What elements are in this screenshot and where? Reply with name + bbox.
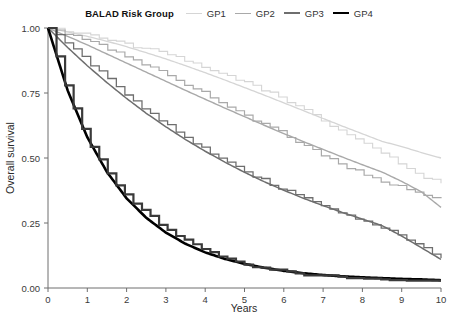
curve-gp1-fitted (48, 28, 441, 158)
curve-gp2-fitted (48, 28, 441, 207)
survival-chart: BALAD Risk Group GP1 GP2 GP3 GP4 0.000.2… (0, 0, 458, 318)
x-tick-label: 9 (399, 294, 404, 305)
curve-gp4-km-step (48, 28, 441, 281)
axes-group (48, 28, 441, 288)
x-tick-label: 7 (320, 294, 325, 305)
curve-gp3-km-step (48, 28, 441, 258)
y-tick-label: 1.00 (22, 23, 41, 34)
plot-area: 0.000.250.500.751.00 012345678910 Years … (0, 0, 458, 318)
x-tick-label: 3 (163, 294, 168, 305)
curves-group (48, 28, 441, 281)
x-tick-label: 0 (45, 294, 50, 305)
x-tick-label: 2 (124, 294, 129, 305)
curve-gp3-fitted (48, 28, 441, 259)
x-tick-label: 10 (436, 294, 447, 305)
y-tick-label: 0.00 (22, 283, 41, 294)
x-tick-label: 1 (85, 294, 90, 305)
x-tick-label: 8 (360, 294, 365, 305)
y-tick-label: 0.75 (22, 88, 41, 99)
y-tick-group: 0.000.250.500.751.00 (22, 23, 49, 294)
x-tick-label: 4 (203, 294, 208, 305)
y-tick-label: 0.25 (22, 218, 41, 229)
x-tick-label: 6 (281, 294, 286, 305)
x-axis-title: Years (231, 302, 257, 314)
curve-gp4-fitted (48, 28, 441, 280)
y-axis-title: Overall survival (4, 122, 16, 194)
y-tick-label: 0.50 (22, 153, 41, 164)
